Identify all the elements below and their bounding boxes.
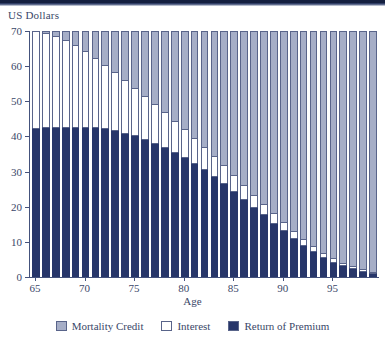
segment-mortality-credit (290, 31, 298, 231)
segment-interest (111, 72, 119, 130)
y-axis-title: US Dollars (8, 9, 59, 21)
x-tick-mark (283, 277, 284, 281)
segment-return-of-premium (131, 135, 139, 277)
bar-age-99 (369, 31, 377, 277)
bar-age-72 (101, 31, 109, 277)
bar-age-75 (131, 31, 139, 277)
segment-mortality-credit (92, 31, 100, 58)
segment-interest (141, 96, 149, 139)
bar-age-85 (230, 31, 238, 277)
segment-mortality-credit (211, 31, 219, 156)
segment-mortality-credit (339, 31, 347, 263)
bar-age-81 (191, 31, 199, 277)
segment-return-of-premium (270, 223, 278, 277)
segment-return-of-premium (290, 238, 298, 277)
segment-mortality-credit (270, 31, 278, 213)
segment-return-of-premium (300, 245, 308, 277)
segment-return-of-premium (359, 271, 367, 277)
plot-area (29, 31, 379, 278)
segment-mortality-credit (191, 31, 199, 137)
y-tick-mark (25, 172, 29, 173)
x-tick-label: 95 (318, 282, 346, 294)
segment-interest (52, 36, 60, 127)
segment-mortality-credit (359, 31, 367, 269)
segment-interest (191, 138, 199, 163)
segment-mortality-credit (101, 31, 109, 65)
segment-mortality-credit (131, 31, 139, 88)
segment-interest (280, 222, 288, 230)
segment-mortality-credit (82, 31, 90, 51)
segment-return-of-premium (240, 199, 248, 277)
segment-interest (260, 204, 268, 215)
legend-label: Mortality Credit (72, 320, 144, 332)
x-tick-label: 90 (269, 282, 297, 294)
segment-return-of-premium (211, 176, 219, 277)
segment-mortality-credit (220, 31, 228, 165)
segment-return-of-premium (161, 147, 169, 277)
y-tick-label: 10 (11, 236, 22, 248)
x-tick-mark (85, 277, 86, 281)
segment-mortality-credit (161, 31, 169, 112)
segment-interest (240, 185, 248, 199)
segment-interest (211, 156, 219, 176)
bar-age-77 (151, 31, 159, 277)
segment-interest (92, 58, 100, 128)
segment-mortality-credit (62, 31, 70, 40)
legend-swatch-icon (56, 321, 67, 331)
bar-age-66 (42, 31, 50, 277)
x-tick-mark (134, 277, 135, 281)
segment-mortality-credit (121, 31, 129, 80)
segment-return-of-premium (111, 130, 119, 277)
legend-swatch-icon (161, 321, 172, 331)
legend-label: Interest (177, 320, 210, 332)
segment-interest (171, 121, 179, 152)
segment-mortality-credit (240, 31, 248, 185)
segment-mortality-credit (369, 31, 377, 272)
segment-return-of-premium (280, 230, 288, 277)
bar-age-80 (181, 31, 189, 277)
segment-interest (220, 165, 228, 183)
segment-return-of-premium (260, 214, 268, 277)
segment-return-of-premium (141, 139, 149, 277)
bar-age-73 (111, 31, 119, 277)
segment-return-of-premium (62, 127, 70, 277)
segment-interest (82, 51, 90, 127)
segment-return-of-premium (220, 183, 228, 277)
segment-return-of-premium (349, 268, 357, 277)
segment-return-of-premium (121, 133, 129, 277)
segment-return-of-premium (82, 127, 90, 277)
segment-interest (230, 175, 238, 190)
y-tick-mark (25, 242, 29, 243)
bar-age-86 (240, 31, 248, 277)
segment-return-of-premium (32, 128, 40, 277)
bar-age-91 (290, 31, 298, 277)
x-tick-mark (184, 277, 185, 281)
y-tick-mark (25, 101, 29, 102)
x-tick-label: 75 (120, 282, 148, 294)
bar-age-98 (359, 31, 367, 277)
bars-layer (30, 31, 379, 277)
segment-mortality-credit (300, 31, 308, 239)
legend-item-2: Return of Premium (228, 320, 329, 332)
segment-mortality-credit (330, 31, 338, 258)
segment-mortality-credit (250, 31, 258, 195)
segment-mortality-credit (151, 31, 159, 104)
legend-label: Return of Premium (244, 320, 329, 332)
x-tick-mark (35, 277, 36, 281)
bar-age-97 (349, 31, 357, 277)
segment-interest (72, 45, 80, 126)
bar-age-78 (161, 31, 169, 277)
y-tick-label: 50 (11, 95, 22, 107)
x-axis-title: Age (0, 295, 385, 307)
segment-interest (181, 129, 189, 157)
x-tick-mark (233, 277, 234, 281)
chart-legend: Mortality CreditInterestReturn of Premiu… (0, 320, 385, 332)
bar-age-88 (260, 31, 268, 277)
segment-mortality-credit (141, 31, 149, 96)
bar-age-92 (300, 31, 308, 277)
y-tick-mark (25, 136, 29, 137)
x-tick-label: 85 (219, 282, 247, 294)
bar-age-94 (320, 31, 328, 277)
segment-return-of-premium (52, 127, 60, 277)
segment-mortality-credit (181, 31, 189, 129)
